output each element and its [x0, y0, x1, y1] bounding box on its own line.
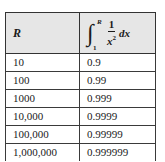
differential: dx: [119, 25, 130, 42]
cell-r: 1,000,000: [6, 144, 80, 162]
header-r: R: [6, 13, 80, 54]
lower-limit: 1: [93, 40, 97, 57]
header-integral: ∫ R 1 1 x2 dx: [80, 13, 156, 54]
cell-value: 0.9: [80, 54, 156, 72]
table-row: 10,000 0.9999: [6, 108, 156, 126]
cell-r: 100: [6, 72, 80, 90]
table-row: 10 0.9: [6, 54, 156, 72]
cell-r: 10,000: [6, 108, 80, 126]
cell-r: 1000: [6, 90, 80, 108]
cell-value: 0.99999: [80, 126, 156, 144]
integral-expression: ∫ R 1 1 x2 dx: [87, 13, 130, 53]
header-row: R ∫ R 1 1 x2 dx: [6, 13, 156, 54]
header-r-label: R: [13, 26, 21, 40]
cell-value: 0.9999: [80, 108, 156, 126]
cell-value: 0.99: [80, 72, 156, 90]
cell-r: 100,000: [6, 126, 80, 144]
fraction: 1 x2: [107, 19, 116, 47]
cell-r: 10: [6, 54, 80, 72]
denominator: x2: [107, 32, 116, 47]
cell-value: 0.999: [80, 90, 156, 108]
denominator-exponent: 2: [113, 34, 117, 42]
table-row: 100,000 0.99999: [6, 126, 156, 144]
table-row: 1,000,000 0.999999: [6, 144, 156, 162]
integral-values-table: R ∫ R 1 1 x2 dx 10 0.9 100: [5, 12, 156, 161]
table-row: 1000 0.999: [6, 90, 156, 108]
table-row: 100 0.99: [6, 72, 156, 90]
numerator: 1: [108, 19, 116, 32]
cell-value: 0.999999: [80, 144, 156, 162]
upper-limit: R: [97, 14, 102, 31]
